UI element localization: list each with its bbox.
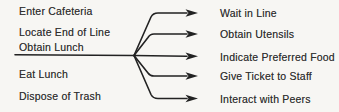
subtask-wait-in-line: Wait in Line	[220, 8, 277, 19]
task-analysis-diagram: Enter Cafeteria Locate End of Line Obtai…	[0, 0, 339, 112]
subtask-obtain-utensils: Obtain Utensils	[220, 29, 294, 40]
subtask-interact-with-peers: Interact with Peers	[220, 93, 311, 104]
obtain-lunch-stem-line	[15, 55, 134, 56]
subtask-indicate-preferred-food: Indicate Preferred Food	[220, 51, 335, 62]
arrow-line-indicate-preferred-food	[134, 56, 187, 57]
arrow-line-interact-with-peers	[134, 56, 187, 99]
subtask-give-ticket-to-staff: Give Ticket to Staff	[220, 70, 312, 81]
